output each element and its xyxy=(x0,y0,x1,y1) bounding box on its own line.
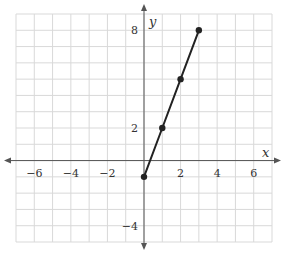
x-tick-label: 4 xyxy=(214,167,221,180)
coordinate-plane: −6−4−224682−4 x y xyxy=(0,0,285,254)
y-tick-label: −4 xyxy=(122,220,138,233)
data-point xyxy=(141,174,147,180)
y-axis-up-arrow-icon xyxy=(141,4,147,11)
y-tick-label: 2 xyxy=(131,122,138,135)
data-line xyxy=(144,30,199,177)
x-axis-label: x xyxy=(262,145,270,160)
x-axis-left-arrow-icon xyxy=(4,158,11,164)
data-point xyxy=(177,76,183,82)
x-tick-label: −6 xyxy=(26,167,42,180)
y-axis-down-arrow-icon xyxy=(141,243,147,250)
y-tick-label: 8 xyxy=(131,24,138,37)
x-tick-label: −4 xyxy=(63,167,79,180)
data-point xyxy=(196,27,202,33)
x-tick-label: −2 xyxy=(99,167,115,180)
x-tick-label: 6 xyxy=(250,167,257,180)
data-point xyxy=(159,125,165,131)
x-axis-right-arrow-icon xyxy=(274,158,281,164)
axes xyxy=(4,4,281,250)
data-series xyxy=(141,27,202,180)
y-axis-label: y xyxy=(148,14,157,29)
x-tick-label: 2 xyxy=(177,167,184,180)
